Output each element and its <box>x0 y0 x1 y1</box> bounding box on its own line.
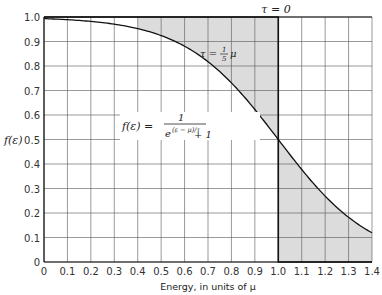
svg-text:1: 1 <box>222 46 226 54</box>
x-tick-labels: 00.10.20.30.40.50.60.70.80.91.01.11.21.3… <box>41 266 380 277</box>
y-tick-label: 0.7 <box>24 86 40 97</box>
svg-text:e: e <box>165 128 171 139</box>
x-tick-label: 0.4 <box>130 266 146 277</box>
svg-text:5: 5 <box>222 55 227 63</box>
x-tick-label: 0.7 <box>200 266 216 277</box>
x-tick-label: 1.1 <box>294 266 310 277</box>
svg-text:f(ε) =: f(ε) = <box>121 120 153 133</box>
y-tick-label: 0.3 <box>24 184 40 195</box>
x-axis-label: Energy, in units of μ <box>160 281 256 292</box>
x-tick-label: 0.8 <box>223 266 239 277</box>
svg-text:+ 1: + 1 <box>194 129 212 140</box>
y-tick-label: 1.0 <box>24 12 40 23</box>
tau-zero-label: τ = 0 <box>261 3 290 16</box>
x-tick-label: 0.6 <box>177 266 193 277</box>
x-tick-label: 0.9 <box>247 266 263 277</box>
x-tick-label: 1.3 <box>341 266 357 277</box>
svg-text:τ =: τ = <box>200 48 217 59</box>
x-tick-label: 1.4 <box>364 266 380 277</box>
x-tick-label: 0.3 <box>106 266 122 277</box>
x-tick-label: 1.0 <box>270 266 286 277</box>
y-axis-label: f(ε) <box>3 134 23 147</box>
y-tick-label: 0.5 <box>24 135 40 146</box>
y-tick-label: 0.2 <box>24 208 40 219</box>
y-tick-label: 0.9 <box>24 37 40 48</box>
x-tick-label: 0.2 <box>83 266 99 277</box>
y-tick-labels: 00.10.20.30.40.50.60.70.80.91.0 <box>24 12 40 268</box>
svg-text:μ: μ <box>230 48 237 59</box>
svg-text:1: 1 <box>178 112 184 123</box>
y-tick-label: 0.6 <box>24 110 40 121</box>
y-tick-label: 0.4 <box>24 159 40 170</box>
x-tick-label: 0 <box>41 266 47 277</box>
x-tick-label: 0.1 <box>59 266 75 277</box>
formula-label: f(ε) = 1 e (ε − μ)/τ + 1 <box>120 112 260 140</box>
y-tick-label: 0.1 <box>24 233 40 244</box>
x-tick-label: 1.2 <box>317 266 333 277</box>
fermi-dirac-chart: 00.10.20.30.40.50.60.70.80.91.01.11.21.3… <box>0 0 382 295</box>
x-tick-label: 0.5 <box>153 266 169 277</box>
y-tick-label: 0 <box>34 257 40 268</box>
y-tick-label: 0.8 <box>24 61 40 72</box>
